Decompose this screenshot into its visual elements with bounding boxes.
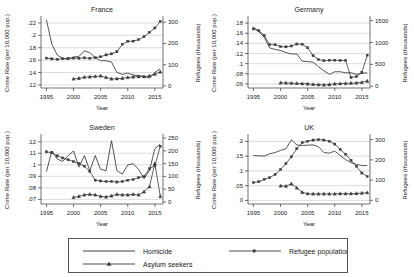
data-point-marker xyxy=(274,173,276,175)
y-tick-label-left: .12 xyxy=(28,139,37,145)
y-tick-label-left: .12 xyxy=(235,51,244,57)
data-point-marker xyxy=(366,175,368,177)
y-tick-label-left: .1 xyxy=(238,61,244,67)
data-point-marker xyxy=(159,194,162,197)
data-point-marker xyxy=(154,27,156,29)
data-point-marker xyxy=(295,186,298,189)
x-tick-label: 2015 xyxy=(148,210,162,216)
y-axis-title-left: Crime Rate (per 10,000 pop.) xyxy=(211,14,217,92)
y-tick-label-left: .1 xyxy=(238,168,244,174)
data-point-marker xyxy=(56,58,58,60)
panel-uk: UK0.05.1.15.2010020030019952000200520102… xyxy=(207,118,414,234)
data-point-marker xyxy=(355,76,357,78)
legend-label-asylum-seekers: Asylum seekers xyxy=(143,261,193,269)
data-point-marker xyxy=(105,54,107,56)
x-tick-label: 2000 xyxy=(274,94,288,100)
data-point-marker xyxy=(339,59,341,61)
x-tick-label: 2015 xyxy=(355,210,369,216)
y-tick-label-left: .06 xyxy=(235,81,244,87)
data-point-marker xyxy=(366,79,369,82)
data-point-marker xyxy=(83,57,85,59)
x-tick-label: 2000 xyxy=(67,94,81,100)
data-point-marker xyxy=(159,70,162,73)
y-tick-label-left: .18 xyxy=(28,45,37,51)
data-point-marker xyxy=(296,148,298,150)
data-point-marker xyxy=(51,152,53,154)
y-tick-label-left: .12 xyxy=(28,82,37,88)
panel-title: Sweden xyxy=(89,124,114,131)
x-tick-label: 1995 xyxy=(247,94,261,100)
data-point-marker xyxy=(143,36,145,38)
data-point-marker xyxy=(148,185,151,188)
data-point-marker xyxy=(83,165,85,167)
data-point-marker xyxy=(138,177,140,179)
y-tick-label-right: 0 xyxy=(168,199,172,205)
data-point-marker xyxy=(159,20,161,22)
x-axis-title: Year xyxy=(303,105,315,111)
data-point-marker xyxy=(317,139,319,141)
data-point-marker xyxy=(258,30,260,32)
panel-title: UK xyxy=(304,124,314,131)
x-tick-label: 1995 xyxy=(40,94,54,100)
y-tick-label-left: .16 xyxy=(235,30,244,36)
data-point-marker xyxy=(296,43,298,45)
y-tick-label-right: 0 xyxy=(375,83,379,89)
figure-root: France.12.14.16.18.2.2201002003001995200… xyxy=(0,0,414,277)
panel-title: France xyxy=(91,6,113,13)
y-tick-label-left: .09 xyxy=(28,173,37,179)
y-tick-label-right: 100 xyxy=(168,62,179,68)
series-line-homicide xyxy=(253,140,367,166)
panel-germany: Germany.06.08.1.12.14.16.180500100015001… xyxy=(207,0,414,118)
y-tick-label-right: 150 xyxy=(168,161,179,167)
y-tick-label-left: .16 xyxy=(28,57,37,63)
x-tick-label: 1995 xyxy=(40,210,54,216)
data-point-marker xyxy=(252,181,254,183)
y-axis-title-right: Refugees (thousands) xyxy=(195,23,201,82)
y-tick-label-left: .08 xyxy=(28,185,37,191)
y-tick-label-right: 300 xyxy=(168,19,179,25)
data-point-marker xyxy=(143,175,145,177)
data-point-marker xyxy=(121,180,123,182)
y-tick-label-left: 0 xyxy=(240,197,244,203)
data-point-marker xyxy=(105,180,107,182)
data-point-marker xyxy=(132,40,134,42)
data-point-marker xyxy=(328,140,330,142)
data-point-marker xyxy=(159,145,161,147)
series-line-refugee-population xyxy=(253,29,367,78)
data-point-marker xyxy=(301,43,303,45)
y-tick-label-left: .07 xyxy=(28,196,37,202)
data-point-marker xyxy=(45,57,47,59)
data-point-marker xyxy=(301,142,303,144)
x-tick-label: 2000 xyxy=(274,210,288,216)
data-point-marker xyxy=(67,159,69,161)
y-tick-label-right: 500 xyxy=(375,61,386,67)
data-point-marker xyxy=(279,168,281,170)
panel-title: Germany xyxy=(295,6,324,14)
data-point-marker xyxy=(323,60,325,62)
data-point-marker xyxy=(121,43,123,45)
y-tick-label-right: 0 xyxy=(375,197,379,203)
data-point-marker xyxy=(285,162,287,164)
data-point-marker xyxy=(100,56,102,58)
data-point-marker xyxy=(67,57,69,59)
x-axis-title: Year xyxy=(96,221,108,227)
series-line-homicide xyxy=(46,20,160,78)
y-tick-label-left: .18 xyxy=(235,20,244,26)
y-tick-label-right: 200 xyxy=(168,40,179,46)
y-tick-label-left: .05 xyxy=(235,183,244,189)
data-point-marker xyxy=(345,59,347,61)
data-point-marker xyxy=(72,160,74,162)
panel-sweden: Sweden.07.08.09.1.11.1205010015020025019… xyxy=(0,118,207,234)
data-point-marker xyxy=(89,57,91,59)
data-point-marker xyxy=(56,155,58,157)
data-point-marker xyxy=(127,179,129,181)
data-point-marker xyxy=(312,55,314,57)
y-tick-label-right: 200 xyxy=(375,157,386,163)
panel-france: France.12.14.16.18.2.2201002003001995200… xyxy=(0,0,207,118)
data-point-marker xyxy=(269,44,271,46)
data-point-marker xyxy=(51,58,53,60)
data-point-marker xyxy=(127,40,129,42)
data-point-marker xyxy=(62,157,64,159)
series-line-refugee-population xyxy=(46,21,160,59)
data-point-marker xyxy=(339,148,341,150)
